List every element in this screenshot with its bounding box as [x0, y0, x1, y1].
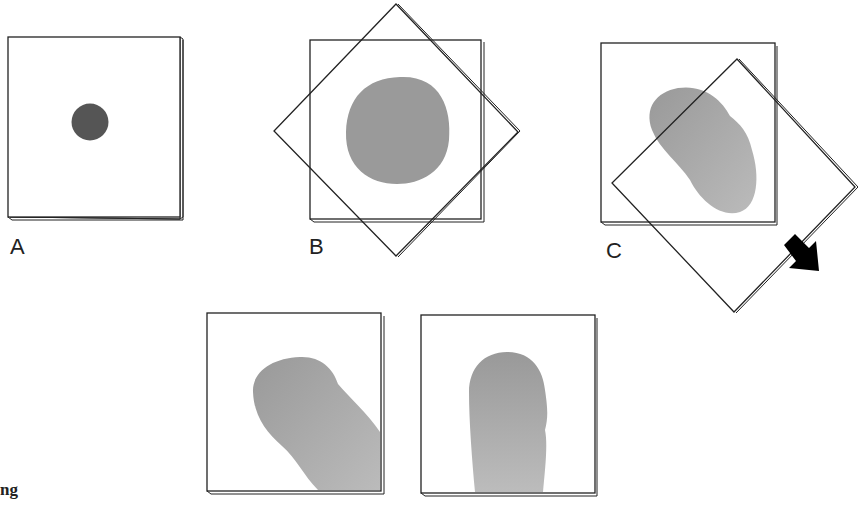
- panel-d: [207, 313, 384, 494]
- panel-c: [601, 43, 858, 313]
- sample-drop: [72, 104, 109, 141]
- smear-b: [346, 77, 449, 184]
- smear-c: [650, 87, 757, 213]
- panel-a: [8, 37, 183, 220]
- smear-e: [469, 352, 547, 492]
- panel-e: [421, 315, 597, 496]
- caption-fragment: ng: [0, 481, 18, 498]
- panel-label-c: C: [606, 240, 622, 262]
- smear-d: [253, 357, 380, 490]
- panel-b: [274, 4, 520, 257]
- panel-label-b: B: [309, 236, 324, 258]
- drag-arrow-icon: [784, 234, 819, 271]
- slide-smear-diagram: [0, 0, 858, 506]
- panel-label-a: A: [10, 236, 25, 258]
